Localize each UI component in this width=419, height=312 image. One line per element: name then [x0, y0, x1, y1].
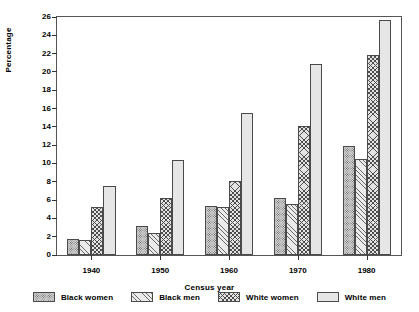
- y-tick-mark: [52, 200, 57, 201]
- y-tick-label: 10: [29, 158, 51, 167]
- bar-1950-black-men: [148, 233, 160, 255]
- bar-1970-black-women: [274, 198, 286, 255]
- bar-group-1950: 1950: [136, 17, 184, 255]
- y-tick-mark: [52, 17, 57, 18]
- y-tick-label: 2: [29, 232, 51, 241]
- y-tick-mark: [52, 163, 57, 164]
- legend-label: White women: [246, 293, 299, 302]
- bar-1970-white-women: [298, 126, 310, 255]
- x-tick-mark: [367, 255, 368, 260]
- plot-inner: 0246810121416182022242619401950196019701…: [57, 17, 401, 255]
- y-tick-label: 14: [29, 122, 51, 131]
- y-axis-label: Percentage: [4, 4, 13, 96]
- bar-1940-black-women: [67, 239, 79, 255]
- y-tick-label: 16: [29, 104, 51, 113]
- legend-item-white-women: White women: [218, 292, 299, 302]
- x-axis-label: Census year: [0, 283, 419, 292]
- y-tick-label: 6: [29, 195, 51, 204]
- legend-label: White men: [345, 293, 386, 302]
- x-tick-label: 1970: [274, 266, 322, 275]
- bar-1970-white-men: [310, 64, 322, 255]
- x-tick-mark: [91, 255, 92, 260]
- legend-swatch: [33, 292, 55, 302]
- legend-item-white-men: White men: [317, 292, 386, 302]
- legend-item-black-men: Black men: [131, 292, 200, 302]
- bar-group-1960: 1960: [205, 17, 253, 255]
- bar-1960-white-men: [241, 113, 253, 255]
- bar-group-1980: 1980: [343, 17, 391, 255]
- chart-legend: Black womenBlack menWhite womenWhite men: [0, 292, 419, 302]
- x-tick-mark: [160, 255, 161, 260]
- y-tick-mark: [52, 126, 57, 127]
- legend-swatch: [218, 292, 240, 302]
- bar-1960-black-women: [205, 206, 217, 255]
- x-tick-label: 1940: [67, 266, 115, 275]
- bar-1970-black-men: [286, 204, 298, 255]
- bar-1960-black-men: [217, 207, 229, 255]
- bar-1940-black-men: [79, 240, 91, 255]
- bar-1980-black-women: [343, 146, 355, 255]
- legend-label: Black women: [61, 293, 113, 302]
- bar-group-1970: 1970: [274, 17, 322, 255]
- legend-swatch: [317, 292, 339, 302]
- plot-area: 0246810121416182022242619401950196019701…: [56, 16, 402, 256]
- bar-1980-white-men: [379, 20, 391, 255]
- y-tick-mark: [52, 35, 57, 36]
- x-tick-label: 1950: [136, 266, 184, 275]
- legend-label: Black men: [159, 293, 200, 302]
- y-tick-mark: [52, 181, 57, 182]
- y-tick-label: 20: [29, 67, 51, 76]
- y-tick-label: 0: [29, 250, 51, 259]
- legend-swatch: [131, 292, 153, 302]
- y-tick-mark: [52, 108, 57, 109]
- y-tick-label: 12: [29, 140, 51, 149]
- y-tick-label: 18: [29, 85, 51, 94]
- y-tick-mark: [52, 53, 57, 54]
- y-tick-label: 26: [29, 12, 51, 21]
- bar-1950-black-women: [136, 226, 148, 255]
- bar-1960-white-women: [229, 181, 241, 255]
- y-tick-mark: [52, 71, 57, 72]
- x-tick-mark: [229, 255, 230, 260]
- y-tick-mark: [52, 218, 57, 219]
- legend-item-black-women: Black women: [33, 292, 113, 302]
- bar-1950-white-men: [172, 160, 184, 255]
- bar-1950-white-women: [160, 198, 172, 255]
- x-tick-label: 1960: [205, 266, 253, 275]
- bar-1940-white-men: [103, 186, 115, 255]
- y-tick-label: 8: [29, 177, 51, 186]
- bar-1940-white-women: [91, 207, 103, 255]
- y-tick-mark: [52, 90, 57, 91]
- y-tick-label: 24: [29, 30, 51, 39]
- bar-1980-white-women: [367, 55, 379, 255]
- y-tick-mark: [52, 145, 57, 146]
- bar-chart: Percentage 02468101214161820222426194019…: [0, 0, 419, 312]
- bar-1980-black-men: [355, 159, 367, 255]
- y-tick-mark: [52, 255, 57, 256]
- y-tick-label: 4: [29, 213, 51, 222]
- bar-group-1940: 1940: [67, 17, 115, 255]
- x-tick-mark: [298, 255, 299, 260]
- y-tick-mark: [52, 236, 57, 237]
- y-tick-label: 22: [29, 49, 51, 58]
- x-tick-label: 1980: [343, 266, 391, 275]
